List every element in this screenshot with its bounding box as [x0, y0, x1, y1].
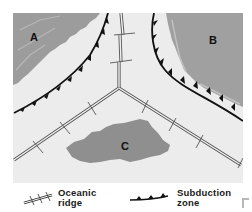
legend-subduction-line2: zone [177, 198, 231, 208]
legend-ridge-line2: ridge [58, 198, 96, 208]
legend-subduction-label: Subduction zone [177, 188, 231, 208]
plate-map-diagram: A B C Oceanic ridge Subduction zone [0, 0, 252, 212]
corner-mark [242, 198, 249, 208]
legend-subduction-symbol [130, 193, 168, 200]
plate-label-c: C [121, 140, 129, 152]
plate-label-a: A [30, 31, 38, 43]
plate-label-b: B [209, 34, 217, 46]
legend-ridge-label: Oceanic ridge [58, 188, 96, 208]
legend-ridge-symbol [24, 192, 52, 205]
